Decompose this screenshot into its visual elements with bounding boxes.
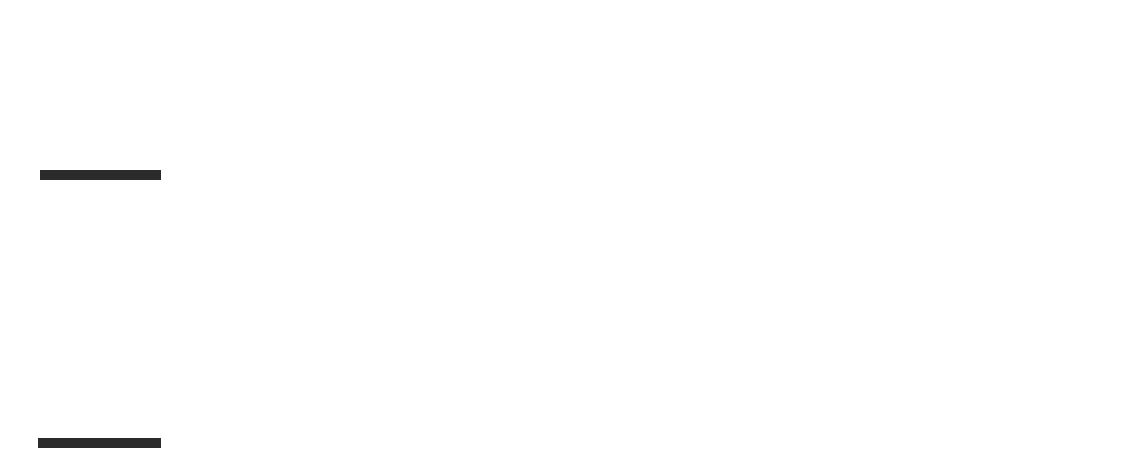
polarization-diagram [0,0,1122,470]
